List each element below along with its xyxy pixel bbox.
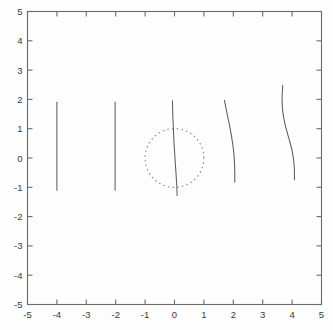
x-tick-label: 3 [260, 309, 265, 320]
x-tick-label: 0 [172, 309, 177, 320]
x-tick-label: 5 [319, 309, 324, 320]
tick-labels-group: -5-4-3-2-1012345-5-4-3-2-1012345 [14, 6, 324, 320]
x-tick-label: -5 [23, 309, 31, 320]
y-tick-label: 0 [17, 153, 22, 164]
y-tick-label: -4 [14, 270, 22, 281]
y-tick-label: 3 [17, 65, 22, 76]
x-tick-label: -4 [53, 309, 61, 320]
x-tick-label: 1 [201, 309, 206, 320]
curve-through-origin [172, 101, 177, 196]
y-tick-label: 2 [17, 94, 22, 105]
y-tick-label: 1 [17, 123, 22, 134]
x-tick-label: 2 [231, 309, 236, 320]
y-tick-label: 5 [17, 6, 22, 17]
y-tick-label: -1 [14, 182, 22, 193]
y-tick-label: -5 [14, 299, 22, 310]
curve-near-x-2 [224, 100, 234, 182]
x-tick-label: -2 [111, 309, 119, 320]
x-tick-label: -1 [141, 309, 149, 320]
chart-figure: -5-4-3-2-1012345-5-4-3-2-1012345 [0, 0, 333, 330]
plot-area: -5-4-3-2-1012345-5-4-3-2-1012345 [0, 0, 333, 330]
y-tick-label: -2 [14, 211, 22, 222]
y-tick-label: 4 [17, 35, 22, 46]
x-tick-label: 4 [289, 309, 294, 320]
curve-near-x-4 [282, 85, 294, 179]
y-tick-label: -3 [14, 240, 22, 251]
curves-group [57, 85, 295, 195]
x-tick-label: -3 [82, 309, 90, 320]
